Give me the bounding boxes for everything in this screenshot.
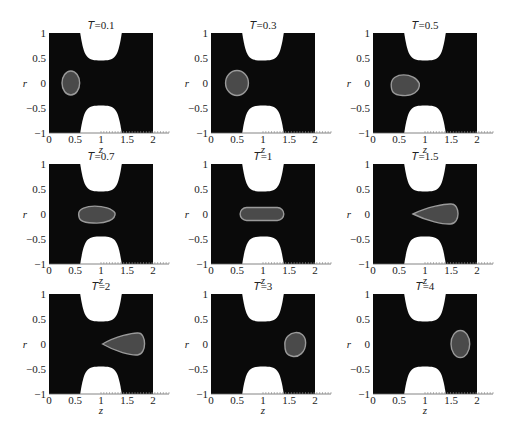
y-axis-label: r [23,208,28,220]
x-tick-label: 2 [312,264,318,276]
y-tick-label: 0.5 [356,183,370,195]
x-tick-label: 1.5 [444,264,458,276]
droplet [226,71,249,96]
y-tick-label: 1 [203,158,209,170]
droplet [62,71,80,95]
x-tick-label: 0 [370,133,376,145]
x-tick-label: 0 [208,394,214,406]
x-tick-label: 0.5 [392,264,406,276]
droplet [240,208,284,221]
x-tick-label: 2 [474,133,480,145]
droplet [391,75,419,96]
panel-title: 𝑇=3 [254,280,273,292]
y-axis-label: r [347,77,352,89]
y-tick-label: 0 [41,208,47,220]
y-tick-label: 0 [41,77,47,89]
y-tick-label: 0.5 [32,313,46,325]
panel-title: 𝑇=0.1 [88,19,115,31]
x-tick-label: 0.5 [68,394,82,406]
y-tick-label: 0 [365,338,371,350]
y-tick-label: 1 [41,27,47,39]
panel-title: 𝑇=0.5 [412,19,439,31]
y-tick-label: 0.5 [356,52,370,64]
panel-title: 𝑇=0.7 [88,150,115,162]
y-tick-label: 0 [203,77,209,89]
x-tick-label: 1.5 [282,264,296,276]
panel-2: 𝑇=0.300.511.5210.50−0.5−1zr [185,19,331,155]
x-tick-label: 2 [312,133,318,145]
panel-6: 𝑇=1.500.511.5210.50−0.5−1zr [347,150,493,286]
x-tick-label: 0.5 [230,264,244,276]
x-tick-label: 1.5 [120,394,134,406]
y-tick-label: −1 [358,258,370,270]
y-tick-label: 0 [365,77,371,89]
x-tick-label: 1.5 [444,394,458,406]
x-tick-label: 0 [46,133,52,145]
figure-grid: 𝑇=0.100.511.5210.50−0.5−1zr𝑇=0.300.511.5… [0,0,519,431]
x-tick-label: 0 [46,264,52,276]
x-tick-label: 0.5 [392,133,406,145]
y-tick-label: 1 [203,27,209,39]
y-tick-label: −0.5 [26,102,46,114]
panel-4: 𝑇=0.700.511.5210.50−0.5−1zr [23,150,169,286]
y-tick-label: 1 [365,27,371,39]
x-axis-label: z [422,404,428,416]
y-tick-label: 0.5 [194,52,208,64]
panel-title: 𝑇=2 [92,280,111,292]
panel-title: 𝑇=4 [416,280,435,292]
droplet [451,331,470,358]
y-tick-label: −1 [196,127,208,139]
y-tick-label: 0 [365,208,371,220]
x-tick-label: 1.5 [282,394,296,406]
y-tick-label: 0.5 [32,52,46,64]
y-tick-label: −0.5 [350,102,370,114]
droplet [79,206,115,223]
y-axis-label: r [185,208,190,220]
y-tick-label: −1 [358,127,370,139]
y-tick-label: −0.5 [188,363,208,375]
y-tick-label: 1 [41,288,47,300]
y-tick-label: 0 [41,338,47,350]
panel-title: 𝑇=1 [254,150,273,162]
panel-8: 𝑇=300.511.5210.50−0.5−1zr [185,280,331,416]
x-tick-label: 0.5 [230,133,244,145]
y-tick-label: −0.5 [188,102,208,114]
y-tick-label: 1 [365,158,371,170]
x-tick-label: 2 [474,394,480,406]
panel-3: 𝑇=0.500.511.5210.50−0.5−1zr [347,19,493,155]
panel-title: 𝑇=1.5 [412,150,439,162]
y-tick-label: 0 [203,208,209,220]
panel-1: 𝑇=0.100.511.5210.50−0.5−1zr [23,19,169,155]
x-tick-label: 2 [150,133,156,145]
y-axis-label: r [347,338,352,350]
y-tick-label: −1 [196,258,208,270]
y-tick-label: 1 [365,288,371,300]
panel-7: 𝑇=200.511.5210.50−0.5−1zr [23,280,169,416]
x-tick-label: 1.5 [282,133,296,145]
x-tick-label: 0 [208,264,214,276]
y-tick-label: 0.5 [32,183,46,195]
y-tick-label: −0.5 [26,363,46,375]
x-tick-label: 0 [370,394,376,406]
y-tick-label: 1 [203,288,209,300]
x-tick-label: 0.5 [392,394,406,406]
x-tick-label: 2 [150,264,156,276]
y-axis-label: r [185,77,190,89]
x-tick-label: 0.5 [68,133,82,145]
y-tick-label: 0.5 [194,183,208,195]
x-tick-label: 2 [474,264,480,276]
y-tick-label: −0.5 [188,233,208,245]
x-axis-label: z [260,404,266,416]
x-tick-label: 0.5 [230,394,244,406]
y-axis-label: r [23,338,28,350]
y-tick-label: 0.5 [356,313,370,325]
x-tick-label: 0 [370,264,376,276]
y-axis-label: r [185,338,190,350]
x-tick-label: 2 [312,394,318,406]
y-tick-label: −1 [358,388,370,400]
y-tick-label: −1 [34,127,46,139]
y-tick-label: 1 [41,158,47,170]
y-tick-label: −0.5 [350,363,370,375]
panel-9: 𝑇=400.511.5210.50−0.5−1zr [347,280,493,416]
droplet [285,333,306,357]
